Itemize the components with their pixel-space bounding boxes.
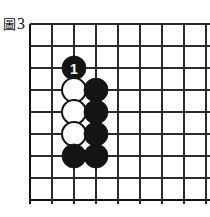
figure-caption-number: 3 [17, 16, 25, 32]
white-stone-a [62, 78, 86, 102]
white-stone-c [62, 122, 86, 146]
black-stone-c [84, 122, 108, 146]
black-stone-e [62, 144, 86, 168]
board-grid [30, 24, 210, 204]
go-board: 1 [0, 0, 210, 217]
white-stone-b [62, 100, 86, 124]
go-diagram-figure: 1 圖 3 [0, 0, 210, 217]
black-stone-d [84, 144, 108, 168]
black-stone-b [84, 100, 108, 124]
black-stone-a [84, 78, 108, 102]
figure-caption-cjk: 圖 [3, 18, 16, 31]
stone-move-number: 1 [70, 61, 78, 77]
go-board-canvas: 1 [0, 0, 210, 217]
board-stones: 1 [62, 56, 108, 168]
figure-caption: 圖 3 [3, 16, 25, 32]
